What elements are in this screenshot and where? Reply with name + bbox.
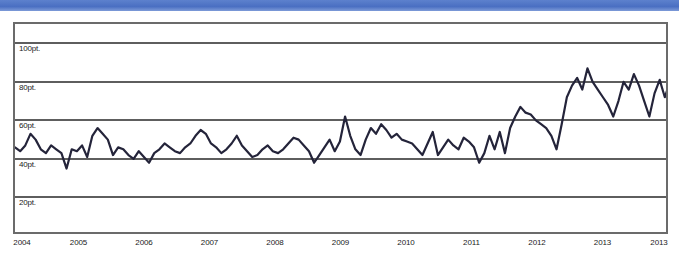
x-tick-label-9: 2013: [594, 238, 611, 248]
line-series-svg: [15, 24, 666, 232]
chart-plot-frame: 100pt.80pt.60pt.40pt.20pt.: [13, 22, 668, 234]
chart-plot-area: 100pt.80pt.60pt.40pt.20pt.: [15, 24, 666, 232]
chart-screenshot: 100pt.80pt.60pt.40pt.20pt. 2004200520062…: [0, 0, 679, 268]
x-tick-label-3: 2007: [201, 238, 218, 248]
top-blue-band: [0, 0, 679, 11]
x-tick-label-0: 2004: [13, 238, 30, 248]
x-tick-label-8: 2012: [528, 238, 545, 248]
x-tick-label-1: 2005: [70, 238, 87, 248]
x-tick-label-4: 2008: [266, 238, 283, 248]
x-tick-label-7: 2011: [463, 238, 480, 248]
x-axis-labels: 2004200520062007200820092010201120122013…: [0, 238, 679, 256]
x-tick-label-5: 2009: [332, 238, 349, 248]
x-tick-label-6: 2010: [397, 238, 414, 248]
x-tick-label-2: 2006: [135, 238, 152, 248]
x-tick-label-10: 2013: [650, 238, 667, 248]
line-series-path: [15, 68, 666, 168]
